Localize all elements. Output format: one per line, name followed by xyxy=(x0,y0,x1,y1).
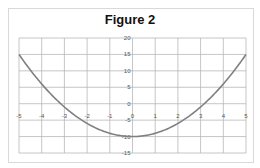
x-tick-label: 1 xyxy=(154,113,158,119)
plot-area: 20151050-5-10-15 -5-4-3-2-1012345 xyxy=(0,0,260,168)
x-tick-label: 5 xyxy=(244,113,248,119)
x-tick-label: -1 xyxy=(107,113,113,119)
x-tick-label: 3 xyxy=(199,113,203,119)
x-axis-tick-labels: -5-4-3-2-1012345 xyxy=(16,113,248,119)
y-axis-tick-labels: 20151050-5-10-15 xyxy=(122,35,131,156)
x-tick-label: -2 xyxy=(84,113,90,119)
y-tick-label: 20 xyxy=(124,35,131,41)
y-tick-label: -15 xyxy=(122,150,131,156)
x-tick-label: 4 xyxy=(222,113,226,119)
x-tick-label: 2 xyxy=(176,113,180,119)
y-tick-label: 10 xyxy=(124,68,131,74)
x-tick-label: -3 xyxy=(62,113,68,119)
y-tick-label: 15 xyxy=(124,51,131,57)
x-tick-label: -5 xyxy=(16,113,22,119)
x-tick-label: -4 xyxy=(39,113,45,119)
x-tick-label: 0 xyxy=(131,113,135,119)
